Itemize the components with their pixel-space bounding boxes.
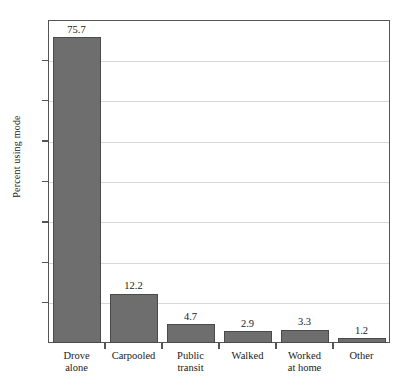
x-category-label: Workedat home xyxy=(276,350,333,374)
x-category-label: Drovealone xyxy=(48,350,105,374)
x-category-label-line: Carpooled xyxy=(105,350,162,362)
x-category-label-line: Other xyxy=(333,350,390,362)
x-tick-mark xyxy=(218,343,219,349)
bar xyxy=(224,331,272,343)
bar-value-label: 1.2 xyxy=(355,326,368,337)
bar-slot: 1.2 xyxy=(338,20,386,343)
bar-slot: 3.3 xyxy=(281,20,329,343)
bar-slot: 12.2 xyxy=(110,20,158,343)
x-tick-mark xyxy=(332,343,333,349)
x-category-label-line: Worked xyxy=(276,350,333,362)
bar xyxy=(281,330,329,343)
x-category-label: Other xyxy=(333,350,390,362)
bar xyxy=(167,324,215,343)
bar-chart: Percent using mode 80706050403020100 75.… xyxy=(0,0,411,391)
bar xyxy=(53,37,101,343)
x-category-label-line: Public xyxy=(162,350,219,362)
x-category-label-line: Drove xyxy=(48,350,105,362)
bar xyxy=(110,294,158,343)
y-axis-title: Percent using mode xyxy=(11,87,22,227)
bars-layer: 75.712.24.72.93.31.2 xyxy=(48,20,390,343)
x-tick-mark xyxy=(161,343,162,349)
bar-value-label: 2.9 xyxy=(241,319,254,330)
bar-value-label: 3.3 xyxy=(298,317,311,328)
x-category-label: Walked xyxy=(219,350,276,362)
x-category-label-line: Walked xyxy=(219,350,276,362)
bar-value-label: 4.7 xyxy=(184,312,197,323)
bar xyxy=(338,338,386,343)
x-category-label: Publictransit xyxy=(162,350,219,374)
caption-strip xyxy=(0,385,411,391)
bar-slot: 2.9 xyxy=(224,20,272,343)
bar-slot: 4.7 xyxy=(167,20,215,343)
x-tick-mark xyxy=(275,343,276,349)
x-category-label-line: alone xyxy=(48,362,105,374)
x-category-label: Carpooled xyxy=(105,350,162,362)
bar-value-label: 75.7 xyxy=(67,25,85,36)
bar-slot: 75.7 xyxy=(53,20,101,343)
x-category-label-line: at home xyxy=(276,362,333,374)
x-category-label-line: transit xyxy=(162,362,219,374)
x-tick-mark xyxy=(104,343,105,349)
bar-value-label: 12.2 xyxy=(124,281,142,292)
